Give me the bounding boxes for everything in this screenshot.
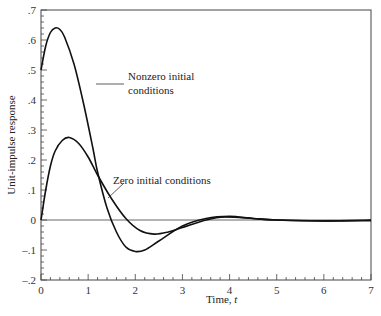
y-tick-label: –.1 [21, 244, 36, 256]
x-axis-label-text: Time, [206, 293, 234, 305]
y-tick-label: .6 [28, 34, 37, 46]
nonzero-initial-conditions-curve [41, 28, 371, 252]
y-tick-label: .5 [28, 64, 37, 76]
y-tick-label: 0 [31, 214, 37, 226]
y-tick-label: .3 [28, 124, 37, 136]
chart: –.2–.10.1.2.3.4.5.6.7 01234567 Nonzero i… [0, 0, 381, 316]
y-tick-label: .1 [28, 184, 36, 196]
nonzero-annotation-line2: conditions [128, 84, 174, 96]
x-tick-label: 1 [85, 284, 91, 296]
x-tick-label: 5 [274, 284, 280, 296]
y-tick-label: –.2 [21, 274, 36, 286]
x-tick-label: 7 [368, 284, 374, 296]
curves [41, 28, 371, 252]
x-tick-label: 3 [180, 284, 186, 296]
y-tick-label: .2 [28, 154, 36, 166]
nonzero-annotation-line1: Nonzero initial [128, 70, 194, 82]
x-axis-label: Time, t [206, 293, 238, 305]
y-tick-labels: –.2–.10.1.2.3.4.5.6.7 [21, 4, 36, 286]
y-tick-label: .4 [28, 94, 37, 106]
zero-annotation: Zero initial conditions [113, 174, 211, 186]
y-tick-label: .7 [28, 4, 37, 16]
x-tick-label: 6 [321, 284, 327, 296]
plot-frame [41, 10, 371, 280]
axis-ticks [41, 10, 371, 280]
y-axis-label: Unit-impulse response [5, 95, 17, 194]
x-tick-label: 0 [38, 284, 44, 296]
x-tick-label: 2 [133, 284, 139, 296]
